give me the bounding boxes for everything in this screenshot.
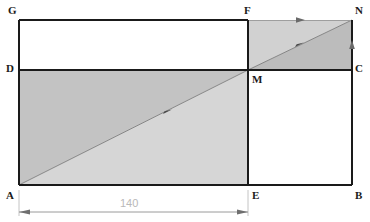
vertex-label-E: E: [252, 190, 259, 201]
vertex-label-B: B: [355, 190, 362, 201]
geometry-figure: [0, 0, 370, 222]
vertex-label-C: C: [355, 63, 363, 74]
diagram-canvas: G F N D M C A E B 140: [0, 0, 370, 222]
dimension-arrow-right-icon: [237, 209, 248, 214]
vertex-label-N: N: [355, 5, 363, 16]
dimension-arrow-left-icon: [19, 209, 30, 214]
vertex-label-F: F: [244, 5, 251, 16]
vertex-label-D: D: [6, 63, 14, 74]
dimension-value-label: 140: [120, 198, 138, 209]
vertex-label-M: M: [252, 74, 262, 85]
vertex-label-G: G: [8, 5, 17, 16]
vertex-label-A: A: [6, 190, 14, 201]
